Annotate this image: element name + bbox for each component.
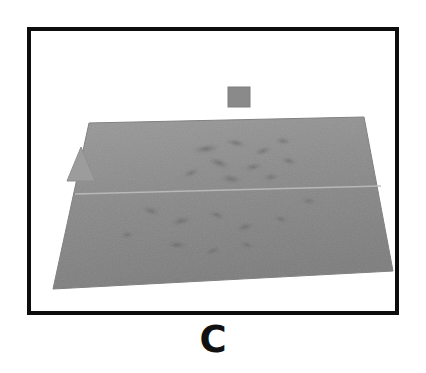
panel-caption: C (0, 318, 426, 362)
image-frame (27, 27, 399, 315)
rendered-scene (31, 31, 395, 311)
figure-panel: C (0, 0, 426, 373)
top-cube-marker (228, 87, 250, 107)
terrain-surface (31, 31, 395, 311)
